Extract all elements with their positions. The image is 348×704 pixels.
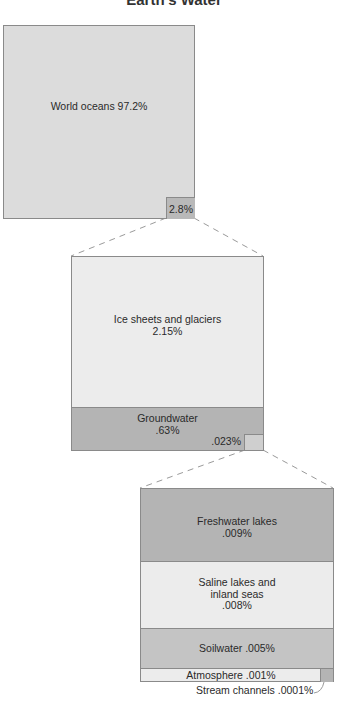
ice-sheets-value: 2.15% [72, 325, 263, 337]
saline-lakes-label-1: Saline lakes and [141, 576, 333, 588]
surface-water-inset [244, 434, 263, 450]
stream-channels-label: Stream channels .0001% [196, 684, 313, 696]
ice-sheets-label: Ice sheets and glaciers [72, 313, 263, 325]
freshwater-lakes-segment: Freshwater lakes .009% [141, 489, 333, 561]
surface-water-value: .023% [211, 435, 241, 447]
other-water-label: 2.8% [167, 203, 195, 215]
other-water-inset: 2.8% [166, 197, 195, 219]
groundwater-segment: Groundwater .63% .023% [72, 407, 263, 450]
stream-channels-inset [320, 668, 333, 682]
freshwater-lakes-value: .009% [141, 527, 333, 539]
atmosphere-label: Atmosphere .001% [141, 669, 321, 681]
soilwater-segment: Soilwater .005% [141, 628, 333, 668]
soilwater-label: Soilwater .005% [141, 642, 333, 654]
saline-lakes-value: .008% [141, 599, 333, 611]
world-oceans-box: World oceans 97.2% 2.8% [3, 25, 195, 219]
atmosphere-segment: Atmosphere .001% [141, 668, 333, 681]
level3-box: Freshwater lakes .009% Saline lakes and … [140, 488, 334, 682]
world-oceans-label: World oceans 97.2% [4, 100, 194, 112]
freshwater-lakes-label: Freshwater lakes [141, 515, 333, 527]
level2-box: Ice sheets and glaciers 2.15% Groundwate… [71, 256, 264, 451]
ice-sheets-segment: Ice sheets and glaciers 2.15% [72, 257, 263, 407]
saline-lakes-segment: Saline lakes and inland seas .008% [141, 561, 333, 628]
groundwater-label: Groundwater [72, 412, 263, 424]
